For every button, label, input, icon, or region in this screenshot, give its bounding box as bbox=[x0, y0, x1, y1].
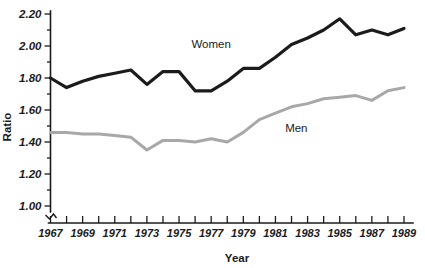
y-tick-label: 1.40 bbox=[19, 136, 42, 148]
y-tick-label: 1.20 bbox=[19, 168, 42, 180]
x-tick-label: 1971 bbox=[103, 227, 127, 239]
chart-container: 1.001.201.401.601.802.002.20 19671969197… bbox=[0, 0, 425, 268]
x-tick-label: 1983 bbox=[295, 227, 319, 239]
x-tick-label: 1989 bbox=[392, 227, 417, 239]
y-tick-label: 2.20 bbox=[18, 8, 42, 20]
x-tick-label: 1981 bbox=[263, 227, 287, 239]
series-line-men bbox=[51, 88, 405, 150]
x-tick-label: 1967 bbox=[38, 227, 63, 239]
series-label-women: Women bbox=[191, 38, 230, 50]
x-tick-label: 1987 bbox=[360, 227, 385, 239]
y-axis-title: Ratio bbox=[1, 113, 13, 142]
y-axis: 1.001.201.401.601.802.002.20 bbox=[18, 8, 56, 219]
x-tick-label: 1975 bbox=[167, 227, 192, 239]
series-annotations: WomenMen bbox=[191, 38, 307, 135]
x-tick-label: 1969 bbox=[70, 227, 95, 239]
line-chart: 1.001.201.401.601.802.002.20 19671969197… bbox=[0, 0, 425, 268]
x-tick-label: 1985 bbox=[327, 227, 352, 239]
y-tick-label: 1.00 bbox=[19, 200, 42, 212]
y-tick-label: 1.60 bbox=[19, 104, 42, 116]
y-tick-label: 2.00 bbox=[18, 40, 42, 52]
x-tick-label: 1979 bbox=[231, 227, 256, 239]
series-line-women bbox=[51, 19, 405, 91]
x-tick-label: 1973 bbox=[135, 227, 159, 239]
series-label-men: Men bbox=[285, 122, 307, 134]
x-tick-label: 1977 bbox=[199, 227, 224, 239]
y-tick-label: 1.80 bbox=[19, 72, 42, 84]
x-axis-title: Year bbox=[225, 252, 250, 264]
x-axis: 1967196919711973197519771979198119831985… bbox=[38, 216, 417, 239]
